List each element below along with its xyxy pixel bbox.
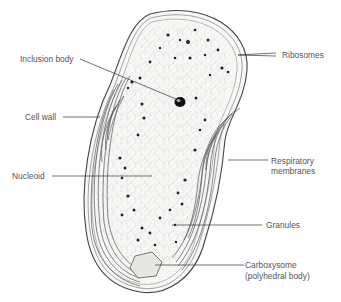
label-inclusion-body: Inclusion body (20, 54, 74, 64)
cell-diagram: Inclusion body Cell wall Nucleoid Riboso… (0, 0, 341, 302)
cell-illustration (0, 0, 341, 302)
label-respiratory-membranes-1: Respiratory (271, 156, 314, 166)
label-respiratory-membranes-2: membranes (271, 166, 315, 176)
label-carboxysome-1: Carboxysome (245, 260, 297, 270)
label-ribosomes: Ribosomes (282, 50, 324, 60)
label-carboxysome-2: (polyhedral body) (245, 271, 310, 281)
label-cell-wall: Cell wall (25, 112, 56, 122)
label-nucleoid: Nucleoid (12, 171, 45, 181)
label-granules: Granules (266, 220, 300, 230)
inclusion-body (175, 97, 186, 107)
